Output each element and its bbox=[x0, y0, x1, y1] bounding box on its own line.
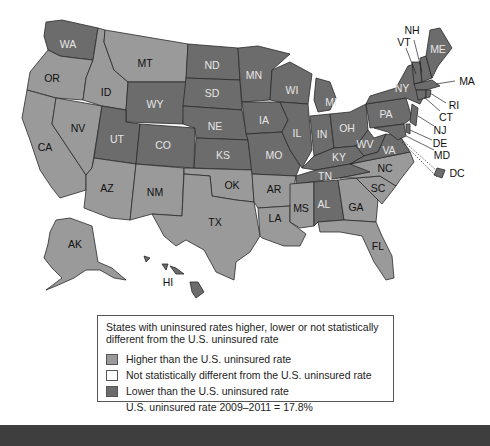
label-va: VA bbox=[382, 144, 395, 156]
state-WI[interactable] bbox=[270, 62, 312, 104]
label-ma: MA bbox=[459, 75, 475, 87]
state-NJ[interactable] bbox=[410, 104, 418, 126]
legend-item-lower: Lower than the U.S. uninsured rate bbox=[106, 383, 385, 399]
legend-item-higher: Higher than the U.S. uninsured rate bbox=[106, 351, 385, 367]
label-mo: MO bbox=[266, 149, 283, 161]
label-de: DE bbox=[433, 137, 448, 149]
label-hi: HI bbox=[163, 276, 174, 288]
label-ks: KS bbox=[216, 149, 230, 161]
label-oh: OH bbox=[339, 122, 355, 134]
legend-item-not-different: Not statistically different from the U.S… bbox=[106, 367, 385, 383]
label-wi: WI bbox=[286, 84, 299, 96]
label-ia: IA bbox=[259, 114, 269, 126]
label-nv: NV bbox=[71, 122, 86, 134]
label-tn: TN bbox=[318, 170, 332, 182]
label-me: ME bbox=[430, 43, 446, 55]
label-nc: NC bbox=[377, 162, 393, 174]
leader-ct bbox=[424, 97, 440, 111]
label-co: CO bbox=[155, 139, 171, 151]
legend-note-us-rate: U.S. uninsured rate 2009–2011 = 17.8% bbox=[106, 399, 385, 415]
label-ut: UT bbox=[110, 133, 125, 145]
label-fl: FL bbox=[372, 240, 384, 252]
legend-label-not-different: Not statistically different from the U.S… bbox=[126, 369, 372, 381]
state-AK[interactable] bbox=[44, 218, 126, 290]
label-sd: SD bbox=[205, 87, 220, 99]
label-sc: SC bbox=[371, 182, 386, 194]
state-RI[interactable] bbox=[426, 90, 431, 98]
legend-title: States with uninsured rates higher, lowe… bbox=[106, 321, 385, 345]
state-CT[interactable] bbox=[416, 90, 426, 100]
label-ny: NY bbox=[395, 82, 410, 94]
label-ak: AK bbox=[68, 238, 82, 250]
state-DC[interactable] bbox=[434, 168, 445, 178]
label-ga: GA bbox=[348, 201, 363, 213]
label-ar: AR bbox=[267, 183, 282, 195]
leader-md bbox=[406, 136, 434, 150]
label-mn: MN bbox=[246, 69, 262, 81]
label-wa: WA bbox=[60, 38, 77, 50]
label-nm: NM bbox=[147, 186, 163, 198]
legend-swatch-higher bbox=[106, 354, 118, 365]
label-il: IL bbox=[293, 127, 302, 139]
label-in: IN bbox=[317, 128, 328, 140]
leader-ri bbox=[430, 93, 446, 103]
label-wy: WY bbox=[147, 98, 164, 110]
label-ms: MS bbox=[293, 202, 309, 214]
label-dc: DC bbox=[449, 167, 465, 179]
legend-swatch-lower bbox=[106, 386, 118, 397]
leader-ma bbox=[436, 81, 455, 84]
legend-label-higher: Higher than the U.S. uninsured rate bbox=[126, 353, 291, 365]
label-ca: CA bbox=[38, 141, 53, 153]
leader-nj bbox=[418, 116, 434, 126]
state-DE[interactable] bbox=[406, 124, 410, 134]
legend-swatch-not-different bbox=[106, 370, 118, 381]
label-az: AZ bbox=[100, 182, 114, 194]
label-ri: RI bbox=[449, 99, 460, 111]
label-mi: MI bbox=[325, 96, 337, 108]
label-ct: CT bbox=[439, 111, 454, 123]
label-pa: PA bbox=[379, 108, 392, 120]
label-ok: OK bbox=[224, 179, 239, 191]
us-states-map: WA OR CA NV ID MT WY UT CO AZ NM ND SD N… bbox=[0, 0, 490, 300]
label-nd: ND bbox=[204, 59, 220, 71]
bottom-bar bbox=[0, 425, 490, 446]
label-nj: NJ bbox=[434, 124, 447, 136]
leader-de bbox=[410, 130, 432, 140]
label-la: LA bbox=[269, 212, 282, 224]
label-mt: MT bbox=[137, 57, 153, 69]
label-al: AL bbox=[318, 198, 331, 210]
label-nh: NH bbox=[404, 24, 419, 36]
map-legend: States with uninsured rates higher, lowe… bbox=[97, 315, 394, 402]
state-HI[interactable] bbox=[144, 256, 204, 298]
label-tx: TX bbox=[208, 216, 221, 228]
label-ne: NE bbox=[208, 120, 223, 132]
label-id: ID bbox=[101, 86, 112, 98]
legend-label-lower: Lower than the U.S. uninsured rate bbox=[126, 385, 289, 397]
label-vt: VT bbox=[397, 36, 411, 48]
label-ky: KY bbox=[332, 151, 346, 163]
label-wv: WV bbox=[357, 138, 374, 150]
label-md: MD bbox=[434, 149, 451, 161]
label-or: OR bbox=[44, 72, 60, 84]
